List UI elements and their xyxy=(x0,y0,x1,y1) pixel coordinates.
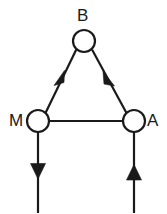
edge-a-b xyxy=(92,50,127,114)
edge-b-m-arrowhead xyxy=(54,71,65,86)
diagram-canvas: B M A xyxy=(0,0,167,214)
edge-b-m xyxy=(46,50,77,114)
edge-a-b-arrowhead xyxy=(103,72,115,87)
edge-in-a xyxy=(127,132,142,214)
node-m-circle[interactable] xyxy=(27,110,49,132)
node-a-circle[interactable] xyxy=(123,110,145,132)
node-b-circle[interactable] xyxy=(73,30,95,52)
node-b-label: B xyxy=(77,7,88,24)
node-a-label: A xyxy=(147,112,158,129)
edge-in-a-arrowhead xyxy=(127,165,142,181)
edge-m-out xyxy=(31,132,46,214)
graph-svg xyxy=(0,0,167,214)
node-m-label: M xyxy=(9,112,23,129)
edge-m-out-arrowhead xyxy=(31,164,46,180)
